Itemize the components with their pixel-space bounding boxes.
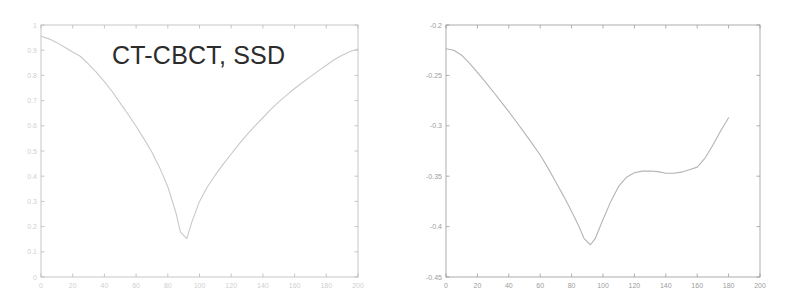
x-tick-label: 200 [754,282,766,289]
x-tick-label: 100 [597,282,609,289]
plot-frame [446,25,760,277]
y-tick-label: -0.45 [426,274,442,281]
x-tick-label: 160 [289,282,301,289]
y-tick-label: 0 [33,274,37,281]
x-tick-label: 20 [69,282,77,289]
x-tick-label: 100 [194,282,206,289]
y-tick-label: 0.2 [27,223,37,230]
x-tick-label: 140 [660,282,672,289]
x-tick-label: 180 [723,282,735,289]
x-tick-label: 40 [101,282,109,289]
y-tick-label: -0.35 [426,173,442,180]
x-tick-label: 120 [225,282,237,289]
x-tick-label: 20 [474,282,482,289]
data-series-line [446,49,729,245]
x-tick-label: 0 [444,282,448,289]
x-tick-label: 60 [536,282,544,289]
y-tick-label: 0.5 [27,148,37,155]
x-tick-label: 200 [352,282,364,289]
x-tick-label: 120 [629,282,641,289]
y-tick-label: 0.9 [27,47,37,54]
x-tick-label: 80 [568,282,576,289]
y-tick-label: 0.6 [27,122,37,129]
cc-panel: 020406080100120140160180200-0.45-0.4-0.3… [400,0,802,304]
y-tick-label: 0.3 [27,198,37,205]
y-tick-label: 0.7 [27,97,37,104]
x-tick-label: 180 [320,282,332,289]
y-tick-label: 0.1 [27,248,37,255]
y-tick-label: -0.25 [426,72,442,79]
cc-plot-svg: 020406080100120140160180200-0.45-0.4-0.3… [400,0,802,304]
y-tick-label: -0.3 [430,122,442,129]
x-tick-label: 40 [505,282,513,289]
x-tick-label: 160 [691,282,703,289]
x-tick-label: 60 [132,282,140,289]
y-tick-label: -0.4 [430,223,442,230]
ssd-panel-title: CT-CBCT, SSD [112,41,285,70]
figure-container: 02040608010012014016018020000.10.20.30.4… [0,0,802,304]
x-tick-label: 140 [257,282,269,289]
y-tick-label: -0.2 [430,22,442,29]
ssd-panel: 02040608010012014016018020000.10.20.30.4… [0,0,400,304]
y-tick-label: 1 [33,22,37,29]
y-tick-label: 0.4 [27,173,37,180]
x-tick-label: 0 [39,282,43,289]
x-tick-label: 80 [164,282,172,289]
y-tick-label: 0.8 [27,72,37,79]
